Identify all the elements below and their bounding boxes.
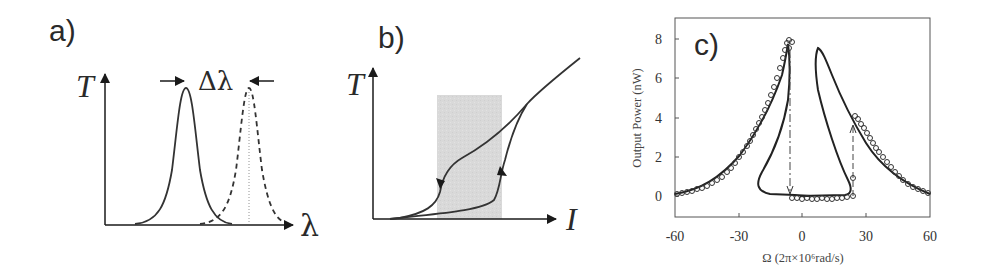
panel-a-label: a) <box>49 14 76 47</box>
panel-c-ytick: 6 <box>655 71 662 86</box>
figure-canvas: a) T λ Δλ b) T I <box>0 0 981 275</box>
panel-c-xtick: 0 <box>799 229 806 244</box>
panel-c-xtick: -60 <box>666 229 685 244</box>
panel-c: 0 2 4 6 8 -60 -30 0 30 60 Ω (2π×10⁶rad/s… <box>630 18 937 265</box>
panel-c-label: c) <box>694 28 719 61</box>
panel-a-solid-peak <box>135 88 232 224</box>
panel-b: b) T I <box>346 21 580 237</box>
panel-c-xtick: 30 <box>859 229 873 244</box>
panel-c-x-axis-label: Ω (2π×10⁶rad/s) <box>762 251 844 265</box>
panel-a-y-variable: T <box>76 68 96 104</box>
panel-b-label: b) <box>378 21 405 54</box>
panel-c-xtick: 60 <box>923 229 937 244</box>
panel-c-measured-points <box>675 38 931 202</box>
panel-c-ytick: 4 <box>655 111 662 126</box>
panel-a-x-variable: λ <box>300 208 319 243</box>
panel-c-x-ticks <box>739 213 866 217</box>
panel-c-ytick: 8 <box>655 32 662 47</box>
panel-c-y-axis-label: Output Power (nW) <box>630 68 644 167</box>
panel-c-ytick: 2 <box>655 150 662 165</box>
panel-a-delta-lambda-label: Δλ <box>198 66 233 96</box>
panel-c-ytick: 0 <box>655 189 662 204</box>
panel-a-dashed-peak <box>200 88 284 224</box>
panel-c-y-ticks <box>675 39 679 196</box>
panel-c-simulation-right <box>800 48 930 196</box>
panel-a: a) T λ Δλ <box>49 14 319 243</box>
panel-c-xtick: -30 <box>730 229 749 244</box>
panel-b-x-variable: I <box>565 201 578 237</box>
panel-b-y-variable: T <box>346 66 366 102</box>
